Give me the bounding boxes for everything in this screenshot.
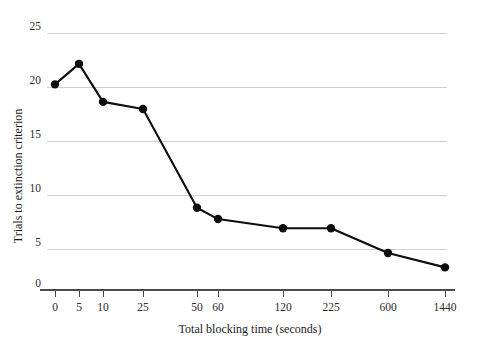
data-point	[99, 98, 107, 106]
data-point	[139, 105, 147, 113]
x-axis	[40, 290, 455, 297]
data-point	[384, 249, 392, 257]
y-tick-label-20: 20	[30, 74, 42, 86]
y-tick-label-10: 10	[30, 182, 42, 194]
line-chart: 25 20 15 10 5 0 0 5 10 25 50 60 120 225 …	[0, 0, 481, 346]
x-tick-label-225: 225	[322, 301, 340, 313]
chart-container: 25 20 15 10 5 0 0 5 10 25 50 60 120 225 …	[0, 0, 481, 346]
x-tick-label-25: 25	[137, 301, 149, 313]
x-axis-title: Total blocking time (seconds)	[179, 322, 322, 336]
data-markers	[51, 60, 449, 272]
gridlines	[47, 33, 447, 249]
x-tick-label-1440: 1440	[434, 301, 457, 313]
data-point	[214, 215, 222, 223]
data-point	[279, 224, 287, 232]
data-point	[75, 60, 83, 68]
data-point	[441, 263, 449, 271]
x-tick-label-60: 60	[212, 301, 224, 313]
x-tick-label-120: 120	[274, 301, 292, 313]
y-axis-title: Trials to extinction criterion	[11, 109, 25, 244]
y-tick-label-0: 0	[35, 277, 41, 289]
x-tick-labels: 0 5 10 25 50 60 120 225 600 1440	[52, 301, 457, 313]
data-point	[51, 80, 59, 88]
y-tick-labels: 25 20 15 10 5 0	[30, 20, 42, 289]
x-tick-label-5: 5	[76, 301, 82, 313]
y-tick-label-5: 5	[35, 236, 41, 248]
data-point	[327, 224, 335, 232]
x-tick-label-50: 50	[191, 301, 203, 313]
x-tick-label-600: 600	[379, 301, 397, 313]
x-tick-label-0: 0	[52, 301, 58, 313]
y-tick-label-15: 15	[30, 128, 42, 140]
data-point	[193, 204, 201, 212]
x-tick-label-10: 10	[97, 301, 109, 313]
y-tick-label-25: 25	[30, 20, 42, 32]
data-series-line	[55, 64, 445, 268]
